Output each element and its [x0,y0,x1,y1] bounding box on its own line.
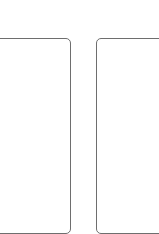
left-panel [0,38,71,234]
canvas [0,0,159,234]
right-panel [96,38,159,234]
